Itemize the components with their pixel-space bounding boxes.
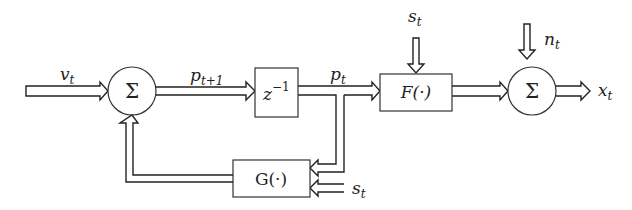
label-p-next: pt+1 (190, 65, 223, 88)
label-p: pt (330, 64, 346, 87)
input-arrow-v (26, 82, 108, 100)
G-block: G(·) (233, 160, 310, 197)
svg-text:G(·): G(·) (255, 169, 287, 189)
output-arrow-x (556, 82, 590, 100)
feedback-arrow (120, 115, 233, 182)
svg-text:Σ: Σ (125, 79, 139, 103)
label-n: nt (544, 29, 560, 52)
delay-block: z−1 (255, 68, 298, 117)
label-s-G: st (352, 178, 366, 201)
label-s-F: st (408, 6, 422, 29)
arrow-n-to-sum2 (519, 24, 535, 59)
arrow-F-to-sum2 (452, 82, 508, 100)
F-block: F(·) (380, 74, 452, 111)
label-v: vt (60, 64, 75, 87)
svg-text:Σ: Σ (525, 79, 539, 103)
svg-text:F(·): F(·) (400, 82, 431, 102)
arrow-s-to-F (408, 38, 424, 73)
label-x: xt (598, 80, 613, 103)
sum-junction-1: Σ (108, 67, 156, 115)
block-diagram: vt Σ pt+1 z−1 pt st G(·) st F(·) (0, 0, 632, 210)
sum-junction-2: Σ (508, 67, 556, 115)
arrow-s-to-G (310, 180, 344, 196)
